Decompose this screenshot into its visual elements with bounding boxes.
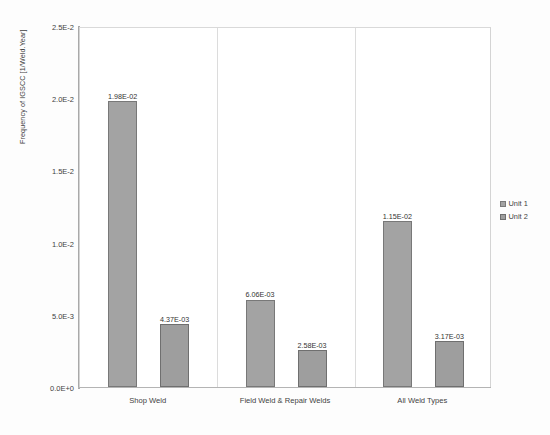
bar-value-label: 2.58E-03 — [297, 341, 326, 350]
plot-inner: 1.98E-024.37E-036.06E-032.58E-031.15E-02… — [80, 28, 490, 387]
plot-area: 1.98E-024.37E-036.06E-032.58E-031.15E-02… — [79, 27, 491, 388]
bar-value-label: 1.98E-02 — [108, 92, 137, 101]
bar[interactable] — [160, 324, 189, 387]
y-axis-tick-label: 2.5E-2 — [30, 23, 74, 32]
bar[interactable] — [298, 350, 327, 387]
x-axis-category-label: All Weld Types — [397, 396, 447, 405]
bar-value-label: 1.15E-02 — [383, 212, 412, 221]
bar-value-label: 3.17E-03 — [435, 332, 464, 341]
bar-value-label: 6.06E-03 — [245, 290, 274, 299]
category-divider — [355, 28, 356, 387]
y-axis-title: Frequency of IGSCC [1/Weld.Year] — [18, 0, 27, 144]
bar[interactable] — [383, 221, 412, 387]
legend-label-unit-2: Unit 2 — [509, 212, 528, 221]
y-axis-tick-label: 0.0E+0 — [30, 384, 74, 393]
legend-swatch-icon-unit-2 — [500, 214, 506, 220]
legend-swatch-icon-unit-1 — [500, 201, 506, 207]
bar[interactable] — [108, 101, 137, 387]
x-axis-line — [78, 387, 491, 388]
x-axis-category-label: Field Weld & Repair Welds — [240, 396, 330, 405]
y-axis-tick-label: 1.0E-2 — [30, 239, 74, 248]
legend-item-unit-1[interactable]: Unit 1 — [500, 199, 548, 208]
bar[interactable] — [435, 341, 464, 387]
legend-label-unit-1: Unit 1 — [509, 199, 528, 208]
category-divider — [217, 28, 218, 387]
bar[interactable] — [246, 300, 275, 388]
y-axis-tick-label: 1.5E-2 — [30, 167, 74, 176]
bar-chart: Frequency of IGSCC [1/Weld.Year] 2.5E-22… — [0, 0, 550, 435]
y-axis-tick-labels: 2.5E-22.0E-21.5E-21.0E-25.0E-30.0E+0 — [30, 0, 74, 435]
y-axis-tick-label: 2.0E-2 — [30, 95, 74, 104]
legend: Unit 1 Unit 2 — [500, 199, 548, 225]
bar-value-label: 4.37E-03 — [160, 315, 189, 324]
y-axis-tick-label: 5.0E-3 — [30, 311, 74, 320]
legend-item-unit-2[interactable]: Unit 2 — [500, 212, 548, 221]
x-axis-category-label: Shop Weld — [129, 396, 166, 405]
